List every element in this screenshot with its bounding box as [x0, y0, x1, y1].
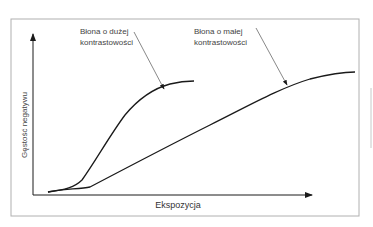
leader-high — [134, 32, 164, 89]
y-axis-label: Gęstość negatywu — [20, 92, 29, 158]
x-axis-label: Ekspozycja — [0, 200, 356, 210]
curve-low-contrast — [48, 72, 355, 192]
annotation-low-contrast: Błona o małej kontrastowości — [194, 26, 247, 48]
annotation-line: Błona o małej — [194, 26, 247, 37]
annotation-high-contrast: Błona o dużej kontrastowości — [80, 26, 133, 48]
curve-high-contrast — [48, 81, 194, 192]
chart-figure: Błona o dużej kontrastowości Błona o mał… — [0, 0, 373, 227]
annotation-line: Błona o dużej — [80, 26, 133, 37]
leader-low — [256, 28, 287, 85]
chart-canvas — [0, 0, 373, 227]
annotation-line: kontrastowości — [80, 37, 133, 48]
annotation-line: kontrastowości — [194, 37, 247, 48]
frame — [11, 19, 359, 216]
